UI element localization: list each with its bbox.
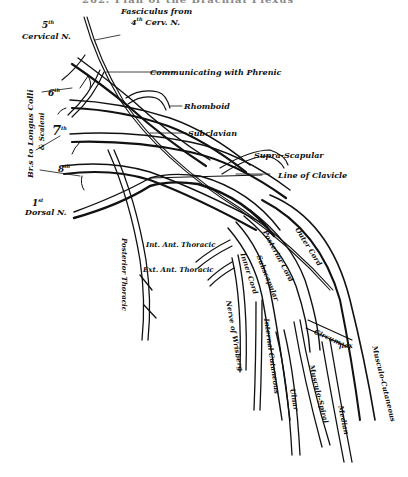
label-rhomboid: Rhomboid: [184, 102, 230, 110]
label-subclavian: Subclavian: [188, 129, 237, 137]
label-cervical-n: Cervical N.: [22, 32, 71, 40]
label-root-8: 8th: [58, 164, 70, 174]
label-fasciculus-line2: 4th Cerv. N.: [131, 17, 180, 26]
label-longus-colli: Br.s to Longus Colli: [26, 90, 34, 178]
label-ext-ant-thoracic: Ext. Ant. Thoracic: [143, 266, 214, 273]
label-communicating-phrenic: Communicating with Phrenic: [150, 68, 281, 76]
label-posterior-thoracic: Posterior Thoracic: [121, 238, 128, 311]
label-dorsal-n: Dorsal N.: [25, 208, 67, 216]
root-7: [70, 133, 290, 198]
label-scaleni: & Scaleni: [38, 113, 45, 150]
label-root-7: 7th: [52, 124, 67, 137]
label-root-5: 5th: [42, 20, 54, 30]
label-int-ant-thoracic: Int. Ant. Thoracic: [146, 241, 215, 248]
label-fasciculus-line1: Fasciculus from: [121, 7, 192, 15]
label-circumflex-b: flex: [339, 342, 353, 349]
label-supra-scapular: Supra-Scapular: [254, 151, 324, 159]
label-root-6: 6th: [48, 88, 60, 98]
label-line-of-clavicle: Line of Clavicle: [278, 171, 347, 179]
